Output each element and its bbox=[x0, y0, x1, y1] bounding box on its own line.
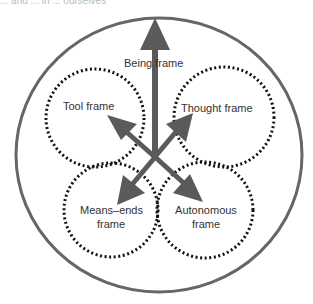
means-ends-arrow-icon bbox=[117, 156, 156, 205]
means-ends-frame-label: Means–ends frame bbox=[80, 203, 142, 231]
tool-frame-circle bbox=[46, 69, 144, 167]
being-frame-label: Being frame bbox=[124, 56, 183, 70]
autonomous-label-line2: frame bbox=[166, 217, 246, 231]
means-ends-label-line1: Means–ends bbox=[80, 203, 142, 217]
means-ends-label-line2: frame bbox=[80, 217, 142, 231]
autonomous-label-line1: Autonomous bbox=[166, 203, 246, 217]
being-arrow-icon bbox=[140, 18, 170, 160]
tool-frame-label: Tool frame bbox=[63, 99, 114, 113]
frames-diagram bbox=[0, 0, 313, 304]
thought-arrow-icon bbox=[154, 113, 193, 158]
autonomous-frame-label: Autonomous frame bbox=[166, 203, 246, 231]
thought-frame-label: Thought frame bbox=[181, 101, 253, 115]
tool-arrow-icon bbox=[107, 115, 156, 158]
